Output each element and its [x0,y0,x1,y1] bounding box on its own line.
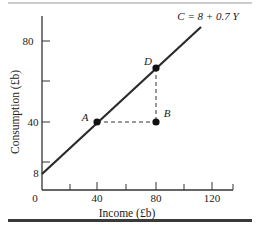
x-ticks [70,182,233,190]
x-tick-label-120: 120 [204,192,221,204]
equation-label: C = 8 + 0.7 Y [177,10,240,22]
y-tick-label-40: 40 [28,116,40,128]
y-tick-label-8: 8 [33,167,39,179]
point-b [152,118,159,125]
x-axis-label: Income (£b) [99,207,156,220]
x-tick-label-0: 0 [32,192,38,204]
consumption-function-chart: 80 40 8 0 40 80 120 Income (£b) Consumpt… [0,0,257,227]
x-tick-label-40: 40 [92,192,104,204]
x-tick-label-80: 80 [151,192,163,204]
y-ticks [42,41,50,162]
point-d [152,64,159,71]
consumption-line [42,27,201,174]
bottom-rule [8,219,252,222]
y-tick-label-80: 80 [23,35,35,47]
point-label-d: D [143,55,152,67]
point-a [93,118,100,125]
point-label-b: B [164,107,171,119]
y-axis-label: Consumption (£b) [9,70,22,154]
point-label-a: A [81,111,89,123]
